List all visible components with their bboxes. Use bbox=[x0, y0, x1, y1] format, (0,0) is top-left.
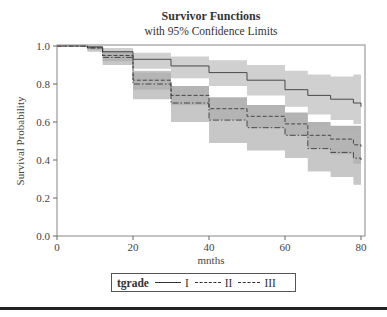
x-tick-label: 80 bbox=[356, 241, 368, 253]
legend-label: II bbox=[225, 277, 233, 289]
y-tick-label: 0.2 bbox=[36, 192, 50, 204]
y-axis-label: Survival Probability bbox=[14, 96, 26, 185]
chart-title: Survivor Functions bbox=[162, 9, 261, 23]
chart-subtitle: with 95% Confidence Limits bbox=[144, 25, 278, 37]
legend-entry-III: III bbox=[238, 277, 276, 289]
survival-chart: Survivor Functions with 95% Confidence L… bbox=[0, 0, 387, 317]
y-tick-label: 0.6 bbox=[36, 116, 50, 128]
x-tick-label: 20 bbox=[128, 241, 140, 253]
y-tick-label: 0.8 bbox=[36, 78, 50, 90]
y-tick-label: 0.4 bbox=[36, 154, 50, 166]
divider bbox=[0, 307, 387, 310]
legend-label: I bbox=[185, 277, 189, 289]
y-axis-ticks: 0.00.20.40.60.81.0 bbox=[36, 40, 57, 242]
legend-label: III bbox=[264, 277, 276, 289]
legend-title: tgrade bbox=[117, 277, 149, 289]
x-axis-ticks: 020406080 bbox=[54, 236, 367, 253]
x-tick-label: 40 bbox=[204, 241, 216, 253]
legend-entry-II: II bbox=[195, 277, 233, 289]
solid-line-icon bbox=[155, 282, 181, 283]
legend-entry-I: I bbox=[155, 277, 189, 289]
y-tick-label: 0.0 bbox=[36, 230, 50, 242]
x-axis-label: mnths bbox=[198, 254, 225, 266]
y-tick-label: 1.0 bbox=[36, 40, 50, 52]
dashed-line-icon bbox=[195, 282, 221, 283]
x-tick-label: 0 bbox=[54, 241, 60, 253]
dashdot-line-icon bbox=[238, 282, 260, 283]
legend: tgrade I II III bbox=[111, 273, 296, 292]
x-tick-label: 60 bbox=[280, 241, 292, 253]
